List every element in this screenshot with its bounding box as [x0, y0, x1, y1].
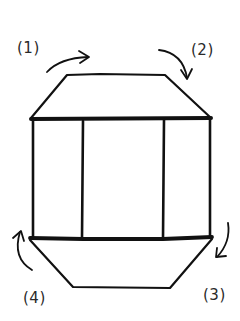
bottom-trapezoid	[30, 239, 212, 288]
arrow-step-3-icon	[216, 223, 229, 257]
step-label-1: (1)	[17, 39, 40, 57]
step-label-4: (4)	[23, 289, 46, 307]
arrow-step-1-icon	[47, 51, 89, 72]
step-label-3: (3)	[203, 286, 226, 304]
rectangle-top-edge	[31, 118, 211, 119]
panel-divider-left	[82, 121, 83, 238]
rectangle-bottom-edge	[30, 237, 212, 239]
top-trapezoid	[31, 74, 211, 118]
panel-divider-right	[163, 120, 164, 238]
step-label-2: (2)	[191, 41, 214, 59]
center-rectangle	[33, 119, 210, 238]
